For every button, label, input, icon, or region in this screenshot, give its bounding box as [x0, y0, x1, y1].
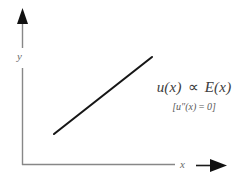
proportionality-relation: u(x) ∝ E(x): [148, 78, 240, 96]
condition-close-bracket: ]: [212, 101, 216, 112]
figure-canvas: y x u(x) ∝ E(x) [u″(x) = 0]: [0, 0, 243, 181]
relation-lhs: u(x): [157, 79, 182, 95]
x-axis: [22, 159, 227, 172]
y-axis: [17, 8, 28, 165]
second-derivative-condition: [u″(x) = 0]: [148, 101, 240, 112]
annotation-block: u(x) ∝ E(x) [u″(x) = 0]: [148, 78, 240, 112]
y-axis-label: y: [17, 51, 22, 62]
arrow-up-icon: [17, 8, 28, 24]
relation-rhs: E(x): [205, 79, 232, 95]
condition-lhs: u″(x): [176, 101, 196, 112]
arrow-right-icon: [210, 159, 227, 172]
x-axis-label: x: [180, 159, 185, 170]
equals-operator: =: [196, 101, 207, 112]
linear-trend-line: [54, 57, 152, 134]
proportional-to-operator: ∝: [182, 79, 205, 95]
